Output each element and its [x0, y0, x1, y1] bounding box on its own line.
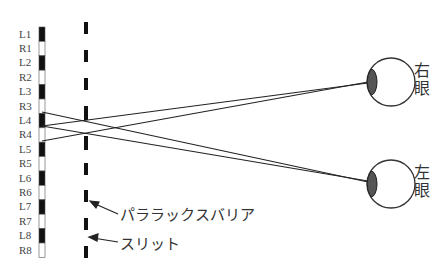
- slit-arrowhead-icon: [89, 234, 98, 241]
- barrier-segment: [84, 190, 88, 202]
- pixel-l6: [39, 171, 45, 185]
- ray-r4-to-left-eye: [42, 126, 368, 181]
- pixel-r7: [39, 214, 45, 228]
- right-eye-label: 右 眼: [414, 62, 432, 98]
- display-strip: [39, 27, 45, 257]
- pixel-r5: [39, 157, 45, 171]
- ray-r4-to-right-eye: [42, 82, 368, 141]
- right-eye: [367, 58, 415, 106]
- barrier-arrowhead-icon: [90, 201, 99, 208]
- barrier-segment: [84, 22, 88, 34]
- pixel-l3: [39, 85, 45, 99]
- pixel-r1: [39, 41, 45, 55]
- parallax-barrier: [84, 22, 88, 258]
- left-pupil: [367, 171, 377, 197]
- pixel-r8: [39, 243, 45, 257]
- barrier-label: パララックスバリア: [120, 203, 255, 224]
- barrier-segment: [84, 78, 88, 90]
- pixel-r6: [39, 185, 45, 199]
- pixel-r3: [39, 99, 45, 113]
- slit-label: スリット: [120, 232, 180, 253]
- barrier-segment: [84, 246, 88, 258]
- barrier-segment: [84, 106, 88, 120]
- light-rays: [42, 82, 368, 182]
- right-eye-char-1: 右: [414, 62, 432, 80]
- barrier-segment: [84, 163, 88, 175]
- pixel-r2: [39, 70, 45, 84]
- left-eye-char-2: 眼: [414, 182, 432, 200]
- pixel-l1: [39, 27, 45, 41]
- barrier-segment: [84, 136, 88, 150]
- left-eye: [367, 160, 415, 208]
- arrows: [89, 201, 118, 242]
- parallax-diagram: [0, 0, 443, 280]
- right-eye-char-2: 眼: [414, 80, 432, 98]
- ray-l4-to-right-eye: [42, 83, 368, 126]
- pixel-l2: [39, 56, 45, 70]
- barrier-segment: [84, 218, 88, 230]
- left-eye-label: 左 眼: [414, 164, 432, 200]
- barrier-segment: [84, 50, 88, 62]
- pixel-l5: [39, 142, 45, 156]
- pixel-l8: [39, 229, 45, 243]
- pixel-l7: [39, 200, 45, 214]
- right-pupil: [367, 69, 377, 95]
- left-eye-char-1: 左: [414, 164, 432, 182]
- ray-l4-to-left-eye: [42, 112, 368, 182]
